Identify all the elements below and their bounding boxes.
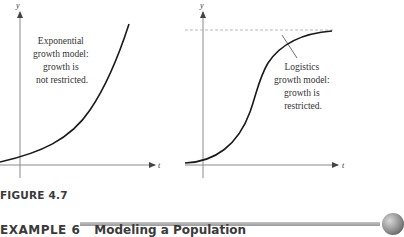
example-number: EXAMPLE 6: [0, 223, 80, 237]
t-axis-label: t: [342, 161, 345, 170]
example-title: Modeling a Population: [94, 223, 246, 237]
logistic-graph: y t Logistics growth model: growth is re…: [185, 1, 345, 178]
section-badge-icon: [382, 213, 404, 235]
exponential-graph: y t Exponential growth model: growth is …: [0, 1, 161, 178]
y-axis-label: y: [199, 1, 204, 10]
logistic-annotation: Logistics growth model: growth is restri…: [274, 62, 332, 111]
example-heading: EXAMPLE 6Modeling a Population: [0, 223, 246, 237]
y-axis-label: y: [15, 1, 20, 10]
t-axis-label: t: [158, 161, 161, 170]
figure-caption-label: FIGURE 4.7: [0, 189, 68, 201]
exponential-annotation: Exponential growth model: growth is not …: [33, 36, 91, 85]
